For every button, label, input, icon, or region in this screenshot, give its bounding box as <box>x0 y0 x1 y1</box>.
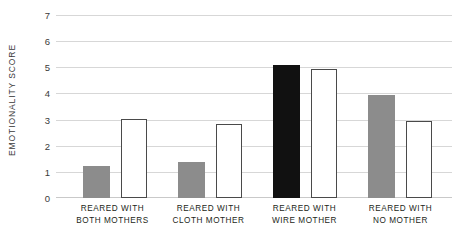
bar-group-4-open <box>406 121 432 198</box>
y-tick-5: 5 <box>32 62 50 73</box>
y-axis-title-label: EMOTIONALITY SCORE <box>7 44 17 156</box>
bar-group-4-filled <box>368 95 395 198</box>
gridline-4 <box>56 93 452 94</box>
bar-group-1-filled <box>83 166 110 199</box>
category-label-1-line1: REARED WITH <box>81 204 144 213</box>
emotionality-score-bar-chart: EMOTIONALITY SCORE 7 6 5 4 3 2 1 0 REARE… <box>0 0 457 245</box>
x-axis-category-labels: REARED WITH BOTH MOTHERS REARED WITH CLO… <box>56 203 452 243</box>
category-label-2-line1: REARED WITH <box>177 204 240 213</box>
bar-group-3-filled <box>273 65 300 198</box>
y-tick-0: 0 <box>32 193 50 204</box>
y-axis-title: EMOTIONALITY SCORE <box>0 0 24 200</box>
bar-group-3-open <box>311 69 337 198</box>
y-tick-6: 6 <box>32 36 50 47</box>
gridline-6 <box>56 41 452 42</box>
category-label-4: REARED WITH NO MOTHER <box>344 203 457 226</box>
y-tick-2: 2 <box>32 140 50 151</box>
category-label-3-line1: REARED WITH <box>273 204 336 213</box>
bar-group-1-open <box>121 119 147 198</box>
bar-group-2-open <box>216 124 242 198</box>
bar-group-2-filled <box>178 162 205 198</box>
y-tick-3: 3 <box>32 114 50 125</box>
gridline-5 <box>56 67 452 68</box>
plot-area <box>56 15 452 198</box>
y-tick-1: 1 <box>32 166 50 177</box>
gridline-7 <box>56 15 452 16</box>
y-tick-7: 7 <box>32 10 50 21</box>
category-label-4-line1: REARED WITH <box>369 204 432 213</box>
y-axis-tick-labels: 7 6 5 4 3 2 1 0 <box>26 15 50 198</box>
category-label-4-line2: NO MOTHER <box>344 215 457 227</box>
y-tick-4: 4 <box>32 88 50 99</box>
